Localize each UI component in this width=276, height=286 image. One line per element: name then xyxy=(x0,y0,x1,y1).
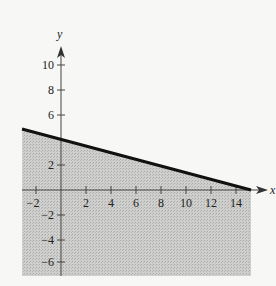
svg-text:2: 2 xyxy=(48,158,54,172)
svg-text:12: 12 xyxy=(205,196,217,210)
svg-text:4: 4 xyxy=(108,196,114,210)
svg-text:8: 8 xyxy=(158,196,164,210)
svg-text:−2: −2 xyxy=(41,208,54,222)
y-axis-label: y xyxy=(56,27,63,41)
svg-text:−4: −4 xyxy=(41,233,54,247)
svg-text:6: 6 xyxy=(133,196,139,210)
svg-text:6: 6 xyxy=(48,108,54,122)
svg-text:8: 8 xyxy=(48,83,54,97)
svg-text:2: 2 xyxy=(83,196,89,210)
svg-text:10: 10 xyxy=(42,58,54,72)
svg-text:−2: −2 xyxy=(27,196,40,210)
svg-text:14: 14 xyxy=(230,196,242,210)
svg-text:10: 10 xyxy=(180,196,192,210)
x-axis-label: x xyxy=(269,183,276,197)
svg-text:−6: −6 xyxy=(41,255,54,269)
graph: x y −2 2 4 6 8 10 12 14 10 8 6 2 xyxy=(0,0,276,286)
